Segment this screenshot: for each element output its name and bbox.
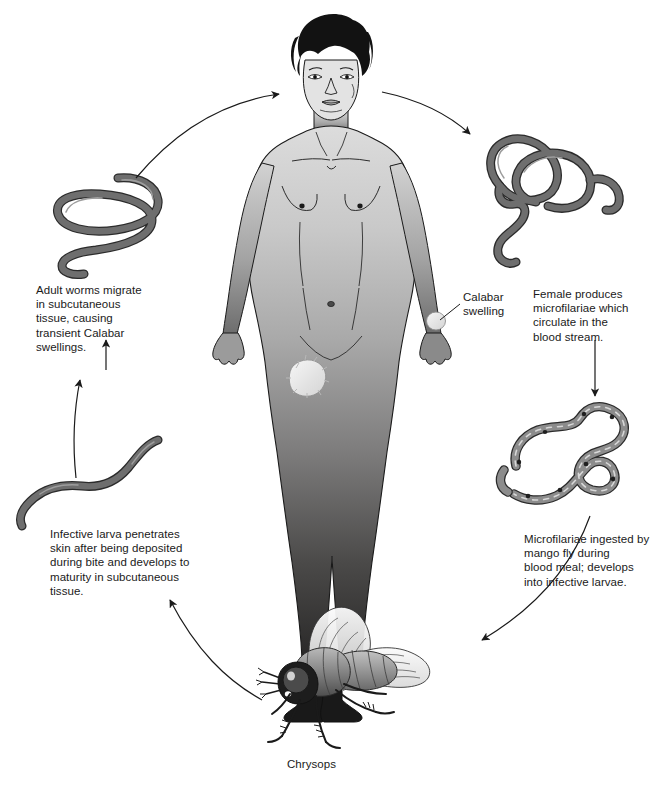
- arrow-human-to-female: [382, 92, 470, 134]
- head: [291, 14, 373, 120]
- arrow-larva-to-adult: [74, 380, 80, 478]
- label-fly-caption: Chrysops: [287, 757, 407, 771]
- label-female-produces: Female produces microfilariae which circ…: [533, 287, 658, 344]
- adult-worm: [57, 178, 158, 275]
- infective-larva: [21, 440, 159, 526]
- label-calabar-swelling: Calabar swelling: [463, 291, 533, 318]
- arrow-fly-to-larva: [170, 600, 262, 700]
- chrysops-fly: [256, 607, 430, 748]
- label-adult-worms: Adult worms migrate in subcutaneous tiss…: [36, 283, 181, 354]
- life-cycle-diagram: Adult worms migrate in subcutaneous tiss…: [0, 0, 661, 791]
- female-worms: [491, 139, 620, 263]
- arrow-worm-to-human: [136, 94, 279, 178]
- calabar-swelling-hand: [427, 312, 446, 330]
- label-microfilariae-ingested: Microfilariae ingested by mango fly duri…: [524, 532, 660, 589]
- diagram-canvas: [0, 0, 661, 791]
- microfilariae: [501, 407, 625, 500]
- label-infective-larva: Infective larva penetrates skin after be…: [50, 527, 215, 598]
- leader-calabar-swelling: [440, 304, 460, 320]
